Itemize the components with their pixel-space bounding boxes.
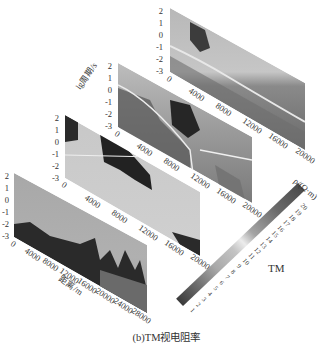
- svg-text:-3: -3: [52, 173, 59, 183]
- colorbar-ticks: 1 2 3 4 5 6 7 8 9 10 11 12 13 14 15 16 1…: [189, 202, 309, 317]
- svg-text:0: 0: [55, 137, 59, 147]
- mode-label: TM: [268, 262, 285, 274]
- svg-text:1: 1: [55, 125, 59, 135]
- svg-text:2: 2: [5, 171, 9, 181]
- y-ticks-panel-1: 2 1 0 -1 -2 -3: [156, 6, 163, 76]
- svg-text:28000: 28000: [130, 305, 153, 325]
- svg-text:-3: -3: [156, 66, 163, 76]
- svg-text:1: 1: [159, 18, 163, 28]
- svg-text:-3: -3: [2, 231, 9, 241]
- svg-text:0: 0: [60, 179, 69, 190]
- y-ticks-panel-3: 2 1 0 -1 -2 -3: [52, 113, 59, 183]
- svg-text:-2: -2: [156, 54, 163, 64]
- svg-text:0: 0: [108, 85, 112, 95]
- svg-text:2: 2: [55, 113, 59, 123]
- svg-text:20000: 20000: [241, 199, 264, 219]
- svg-text:1: 1: [108, 73, 112, 83]
- svg-text:0: 0: [159, 30, 163, 40]
- svg-text:-2: -2: [105, 109, 112, 119]
- svg-text:-1: -1: [156, 42, 163, 52]
- figure-caption: (b)TM视电阻率: [0, 329, 333, 344]
- svg-text:1: 1: [5, 183, 9, 193]
- y-axis-label: lg周期/s: [73, 61, 99, 92]
- chart-canvas: 2 1 0 -1 -2 -3 2 1 0 -1 -2 -3 2 1 0 -1 -…: [0, 0, 333, 346]
- y-ticks-panel-2: 2 1 0 -1 -2 -3: [105, 61, 112, 131]
- svg-text:2: 2: [159, 6, 163, 16]
- svg-text:-3: -3: [105, 121, 112, 131]
- svg-text:0: 0: [5, 195, 9, 205]
- svg-text:-2: -2: [52, 161, 59, 171]
- svg-text:-1: -1: [52, 149, 59, 159]
- svg-text:0: 0: [165, 73, 174, 84]
- svg-text:1: 1: [189, 306, 196, 313]
- svg-text:0: 0: [9, 238, 18, 249]
- svg-text:20000: 20000: [294, 145, 317, 165]
- svg-text:-1: -1: [2, 207, 9, 217]
- svg-text:-1: -1: [105, 97, 112, 107]
- y-ticks-panel-4: 2 1 0 -1 -2 -3: [2, 171, 9, 241]
- svg-text:-2: -2: [2, 219, 9, 229]
- svg-text:2: 2: [108, 61, 112, 71]
- svg-text:0: 0: [113, 128, 122, 139]
